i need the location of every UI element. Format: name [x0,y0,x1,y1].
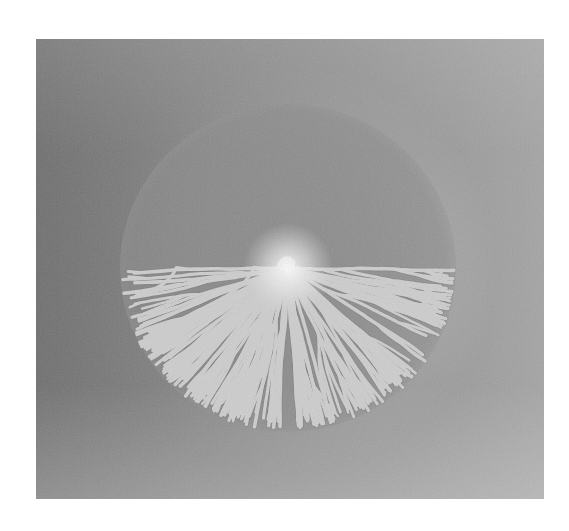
page-canvas [0,0,569,531]
radial-colony-pattern [36,39,544,499]
photograph [36,39,544,499]
colony-center [243,223,333,313]
